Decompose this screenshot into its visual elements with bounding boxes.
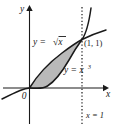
origin-label: 0 xyxy=(22,91,27,101)
sqrt-curve-label: y = √x xyxy=(32,37,66,48)
cubic-curve-label: y = x 3 xyxy=(63,64,91,76)
function-graph-figure: y x 0 y = √x y = x 3 (1, 1) x = 1 xyxy=(0,0,118,129)
figure-container: y x 0 y = √x y = x 3 (1, 1) x = 1 xyxy=(0,0,118,129)
y-axis-arrow-icon xyxy=(26,5,32,11)
cubic-curve-label-text: y = x xyxy=(63,65,84,75)
sqrt-curve-label-function: √x xyxy=(53,37,63,47)
intersection-point-label: (1, 1) xyxy=(84,38,103,48)
vertical-line-label: x = 1 xyxy=(85,110,104,120)
sqrt-curve-label-text: y = xyxy=(32,37,46,47)
y-axis-label: y xyxy=(19,4,25,14)
x-axis-label: x xyxy=(105,89,111,99)
cubic-curve-label-exponent: 3 xyxy=(87,64,91,70)
